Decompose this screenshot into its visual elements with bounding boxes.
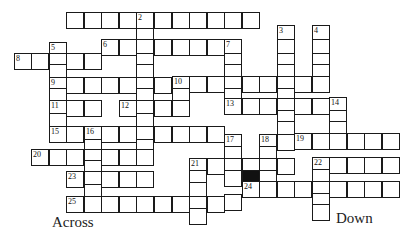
- crossword-cell[interactable]: [84, 100, 102, 117]
- crossword-cell[interactable]: [66, 100, 84, 117]
- crossword-cell[interactable]: [119, 149, 137, 166]
- crossword-cell[interactable]: [207, 76, 225, 93]
- crossword-cell[interactable]: 20: [31, 149, 49, 166]
- crossword-cell[interactable]: 24: [242, 181, 260, 198]
- crossword-cell[interactable]: [224, 194, 242, 211]
- crossword-cell[interactable]: [84, 53, 102, 70]
- crossword-cell[interactable]: [364, 157, 382, 174]
- crossword-cell[interactable]: [364, 181, 382, 198]
- crossword-cell[interactable]: [154, 12, 172, 29]
- crossword-cell[interactable]: [382, 133, 400, 150]
- crossword-cell[interactable]: [189, 126, 207, 143]
- crossword-cell[interactable]: [364, 133, 382, 150]
- crossword-cell[interactable]: 19: [294, 133, 312, 150]
- clue-number: 24: [244, 182, 252, 191]
- crossword-cell[interactable]: [277, 181, 295, 198]
- crossword-cell[interactable]: [347, 133, 365, 150]
- crossword-cell[interactable]: [207, 196, 225, 213]
- crossword-cell[interactable]: [172, 39, 190, 56]
- crossword-cell[interactable]: [294, 98, 312, 115]
- crossword-cell[interactable]: [382, 157, 400, 174]
- crossword-cell[interactable]: [329, 157, 347, 174]
- crossword-cell[interactable]: [136, 171, 154, 188]
- crossword-cell[interactable]: [277, 158, 295, 175]
- crossword-cell[interactable]: 2: [136, 12, 154, 29]
- crossword-cell[interactable]: [189, 12, 207, 29]
- crossword-cell[interactable]: [66, 149, 84, 166]
- crossword-cell[interactable]: [172, 196, 190, 213]
- crossword-cell[interactable]: [119, 39, 137, 56]
- crossword-cell[interactable]: [294, 181, 312, 198]
- crossword-cell[interactable]: [329, 133, 347, 150]
- crossword-cell[interactable]: [207, 12, 225, 29]
- crossword-cell[interactable]: [172, 126, 190, 143]
- crossword-cell[interactable]: [312, 133, 330, 150]
- crossword-cell[interactable]: [382, 181, 400, 198]
- clue-number: 7: [226, 40, 230, 49]
- crossword-cell[interactable]: [154, 39, 172, 56]
- crossword-cell[interactable]: [347, 181, 365, 198]
- crossword-cell[interactable]: [242, 12, 260, 29]
- crossword-cell[interactable]: [101, 196, 119, 213]
- crossword-cell[interactable]: [101, 149, 119, 166]
- crossword-cell[interactable]: 6: [101, 39, 119, 56]
- clue-number: 8: [16, 54, 20, 63]
- crossword-cell[interactable]: [312, 204, 330, 221]
- crossword-cell[interactable]: [49, 149, 67, 166]
- crossword-cell[interactable]: [312, 76, 330, 93]
- crossword-cell[interactable]: [84, 77, 102, 94]
- crossword-cell[interactable]: [119, 12, 137, 29]
- crossword-cell[interactable]: 23: [66, 171, 84, 188]
- clue-number: 17: [226, 135, 234, 144]
- crossword-cell[interactable]: [84, 196, 102, 213]
- crossword-cell[interactable]: [154, 77, 172, 94]
- crossword-cell[interactable]: [136, 196, 154, 213]
- crossword-cell[interactable]: [224, 12, 242, 29]
- crossword-cell[interactable]: [154, 126, 172, 143]
- crossword-cell[interactable]: [101, 171, 119, 188]
- crossword-cell[interactable]: [259, 181, 277, 198]
- crossword-cell[interactable]: [101, 77, 119, 94]
- crossword-cell[interactable]: [119, 196, 137, 213]
- crossword-cell[interactable]: [31, 53, 49, 70]
- crossword-cell[interactable]: [119, 77, 137, 94]
- crossword-cell[interactable]: [347, 157, 365, 174]
- crossword-cell[interactable]: [136, 149, 154, 166]
- crossword-cell[interactable]: [66, 126, 84, 143]
- crossword-cell[interactable]: [207, 126, 225, 143]
- crossword-cell[interactable]: [312, 98, 330, 115]
- crossword-cell[interactable]: [277, 134, 295, 151]
- clue-number: 18: [261, 135, 269, 144]
- crossword-cell[interactable]: [242, 98, 260, 115]
- crossword-cell[interactable]: [259, 76, 277, 93]
- crossword-cell[interactable]: [84, 12, 102, 29]
- crossword-cell[interactable]: [172, 100, 190, 117]
- crossword-cell[interactable]: 25: [66, 196, 84, 213]
- crossword-cell[interactable]: 15: [49, 126, 67, 143]
- crossword-cell[interactable]: [66, 12, 84, 29]
- crossword-cell[interactable]: [189, 39, 207, 56]
- clue-number: 5: [51, 43, 55, 52]
- crossword-cell[interactable]: 8: [14, 53, 32, 70]
- crossword-cell[interactable]: [154, 100, 172, 117]
- crossword-cell[interactable]: [154, 196, 172, 213]
- crossword-cell[interactable]: [101, 12, 119, 29]
- crossword-cell[interactable]: [189, 76, 207, 93]
- crossword-cell[interactable]: [224, 170, 242, 187]
- crossword-cell[interactable]: 12: [119, 100, 137, 117]
- crossword-cell[interactable]: 13: [224, 98, 242, 115]
- crossword-cell[interactable]: [294, 76, 312, 93]
- crossword-cell[interactable]: [189, 208, 207, 225]
- crossword-cell[interactable]: [119, 126, 137, 143]
- crossword-cell[interactable]: [101, 126, 119, 143]
- crossword-cell[interactable]: [207, 158, 225, 175]
- crossword-cell[interactable]: [119, 171, 137, 188]
- crossword-cell[interactable]: [259, 98, 277, 115]
- crossword-cell[interactable]: [66, 53, 84, 70]
- crossword-cell[interactable]: [207, 39, 225, 56]
- crossword-cell[interactable]: [329, 181, 347, 198]
- crossword-cell[interactable]: [242, 76, 260, 93]
- crossword-cell[interactable]: [172, 12, 190, 29]
- down-heading: Down: [336, 210, 373, 227]
- crossword-cell[interactable]: [66, 77, 84, 94]
